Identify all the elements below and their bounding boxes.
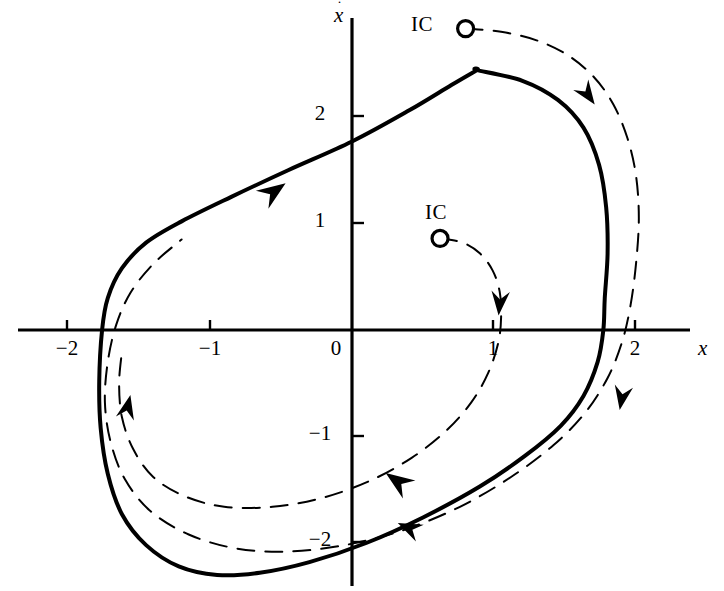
y-tick-label-1: 1 [298, 208, 342, 233]
x-axis-label: x [698, 336, 707, 361]
curve-inner-transient-from-IC [119, 238, 501, 508]
y-tick-label--1: −1 [298, 421, 342, 446]
curves-layer [99, 29, 639, 576]
x-tick-label--1: −1 [188, 336, 232, 361]
curve-outer-transient-from-IC [105, 29, 639, 552]
ic-inner-marker[interactable] [432, 230, 448, 246]
ic-outer-label: IC [411, 12, 433, 37]
origin-label: 0 [314, 336, 358, 361]
x-tick-label-1: 1 [471, 336, 515, 361]
ic-outer-marker[interactable] [458, 21, 474, 37]
arrow-outer-transient-from-IC-0 [573, 79, 595, 104]
y-tick-label--2: −2 [298, 527, 342, 552]
axes-layer [18, 18, 690, 586]
limit-cycle-arrow-1 [386, 473, 416, 498]
phase-portrait-plot [0, 0, 724, 591]
limit-cycle-arrow-0 [256, 183, 286, 208]
x-tick-label--2: −2 [45, 336, 89, 361]
xdot-axis-label: ˙x [334, 3, 343, 28]
y-tick-label-2: 2 [298, 101, 342, 126]
arrow-outer-transient-from-IC-1 [615, 385, 633, 411]
x-tick-label-2: 2 [613, 336, 657, 361]
xdot-overdot: ˙ [337, 0, 342, 15]
phase-plane-figure: x ˙x IC IC −2−101221−1−2 [0, 0, 724, 591]
ic-inner-label: IC [425, 200, 447, 225]
arrow-outer-transient-from-IC-2 [398, 523, 424, 542]
